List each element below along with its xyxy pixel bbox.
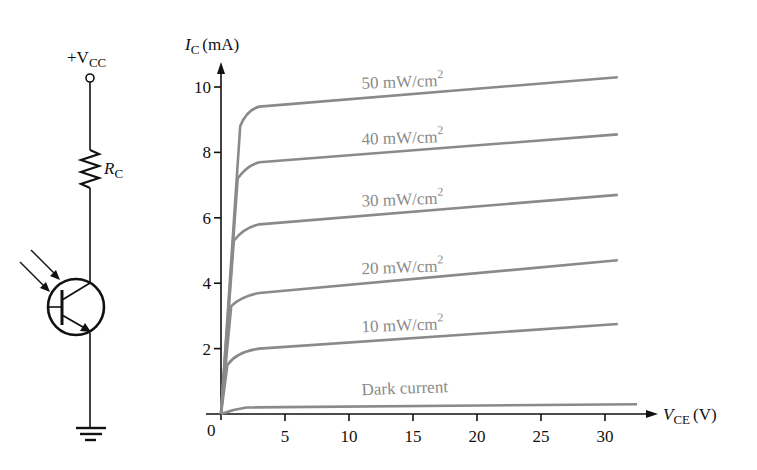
curve-6	[221, 404, 637, 414]
origin-label: 0	[207, 421, 216, 440]
x-tick-label: 10	[341, 427, 358, 446]
axes	[206, 62, 658, 421]
y-tick-labels: 246810	[194, 78, 212, 359]
circuit-schematic	[20, 74, 106, 440]
phototransistor-figure: +VCC RC 51015202530 246810 0 IC(mA) VCE(…	[0, 0, 757, 470]
curve-label: 30 mW/cm2	[361, 185, 444, 211]
x-tick-label: 25	[533, 427, 550, 446]
supply-terminal-icon	[86, 74, 94, 82]
light-arrows-icon	[20, 250, 60, 292]
y-ticks	[214, 87, 221, 349]
x-tick-label: 30	[597, 427, 614, 446]
x-tick-label: 5	[281, 427, 290, 446]
phototransistor-icon	[20, 250, 104, 428]
resistor-label: RC	[103, 159, 123, 181]
curve-labels: 50 mW/cm240 mW/cm230 mW/cm220 mW/cm210 m…	[361, 67, 448, 399]
x-ticks	[285, 414, 605, 421]
x-axis-label: VCE(V)	[663, 405, 717, 427]
curve-label: Dark current	[361, 377, 448, 399]
y-tick-label: 6	[203, 209, 212, 228]
y-tick-label: 10	[194, 78, 211, 97]
y-tick-label: 2	[203, 340, 212, 359]
y-tick-label: 4	[203, 274, 212, 293]
supply-label: +VCC	[67, 48, 106, 70]
x-tick-labels: 51015202530	[281, 427, 614, 446]
x-axis-arrow-icon	[646, 410, 658, 418]
curve-label: 50 mW/cm2	[361, 67, 444, 93]
x-tick-label: 15	[405, 427, 422, 446]
resistor-icon	[81, 150, 99, 188]
y-axis-label: IC(mA)	[184, 35, 239, 57]
ground-icon	[76, 428, 106, 440]
curve-5	[221, 324, 618, 414]
curve-label: 10 mW/cm2	[361, 310, 444, 336]
y-tick-label: 8	[203, 143, 212, 162]
y-axis-arrow-icon	[217, 62, 225, 74]
x-tick-label: 20	[469, 427, 486, 446]
curve-label: 40 mW/cm2	[361, 123, 444, 149]
curve-label: 20 mW/cm2	[361, 252, 444, 278]
